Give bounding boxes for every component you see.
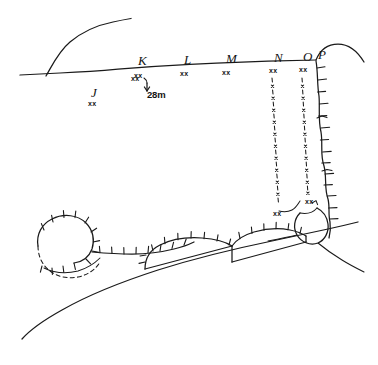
upper-left-slope-curve bbox=[46, 19, 131, 77]
lobe-foot-branch bbox=[268, 235, 364, 272]
gully-line-o bbox=[301, 78, 317, 205]
station-mark-n: xx bbox=[269, 67, 278, 74]
scale-bar-tick-mark: xx bbox=[131, 75, 140, 82]
terrace-cell-left bbox=[139, 232, 232, 269]
lower-left-hook-loop bbox=[38, 211, 100, 278]
station-mark-l: xx bbox=[180, 70, 189, 77]
station-label-o: O bbox=[303, 50, 313, 63]
bench-hachure-ticks bbox=[99, 239, 186, 254]
hachured-bench-line bbox=[92, 239, 194, 254]
annotation-mark-lower-left: xx bbox=[273, 210, 282, 217]
scale-bar-label: 28m bbox=[147, 90, 165, 100]
station-mark-o: xx bbox=[299, 66, 308, 73]
sketch-map-figure: J xx K xx L xx M xx N xx O xx P xx 28m x… bbox=[0, 0, 378, 365]
scarp-hachure-ticks bbox=[317, 67, 338, 219]
lobe-outline bbox=[295, 208, 329, 244]
right-scarp-hachured bbox=[316, 44, 364, 238]
station-label-n: N bbox=[274, 51, 283, 64]
station-label-k: K bbox=[138, 54, 147, 67]
annotation-mark-lower-right: xx bbox=[305, 198, 314, 205]
station-label-l: L bbox=[184, 53, 191, 66]
gully-line-n bbox=[271, 78, 300, 212]
station-label-j: J bbox=[91, 86, 97, 99]
station-mark-m: xx bbox=[222, 69, 231, 76]
station-mark-j: xx bbox=[88, 100, 97, 107]
lower-diagonal-curve bbox=[22, 222, 358, 339]
station-label-m: M bbox=[226, 52, 237, 65]
station-label-p: P bbox=[318, 48, 326, 61]
